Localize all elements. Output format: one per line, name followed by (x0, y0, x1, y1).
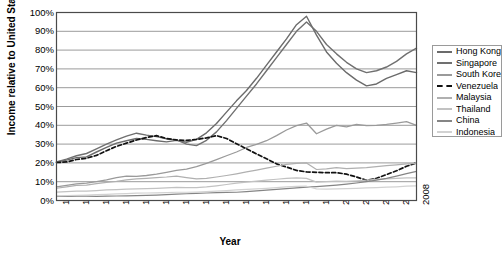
legend-swatch (437, 97, 452, 99)
legend-label: Singapore (456, 59, 497, 68)
chart-legend: Hong KongSingaporeSouth KoreaVenezuelaMa… (432, 45, 502, 137)
legend-item[interactable]: Indonesia (433, 127, 501, 138)
legend-item[interactable]: South Korea (433, 69, 501, 81)
legend-swatch (437, 62, 452, 64)
legend-item[interactable]: Malaysia (433, 92, 501, 104)
legend-item[interactable]: Venezuela (433, 81, 501, 93)
legend-swatch (437, 51, 452, 53)
legend-swatch (437, 74, 452, 76)
legend-label: South Korea (456, 70, 501, 79)
legend-item[interactable]: China (433, 115, 501, 127)
legend-swatch (437, 85, 452, 87)
legend-label: Indonesia (456, 128, 495, 137)
legend-label: Venezuela (456, 82, 498, 91)
legend-label: China (456, 116, 480, 125)
legend-label: Malaysia (456, 93, 492, 102)
legend-item[interactable]: Singapore (433, 58, 501, 70)
legend-label: Thailand (456, 105, 491, 114)
legend-swatch (437, 108, 452, 110)
legend-label: Hong Kong (456, 47, 501, 56)
legend-item[interactable]: Thailand (433, 104, 501, 116)
legend-swatch (437, 120, 452, 122)
legend-swatch (437, 131, 452, 133)
legend-item[interactable]: Hong Kong (433, 46, 501, 58)
